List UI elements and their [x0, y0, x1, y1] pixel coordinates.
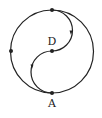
- label-d: D: [48, 35, 57, 48]
- lower-inner-arc: [31, 51, 52, 93]
- point-top: [50, 8, 54, 12]
- label-a: A: [47, 97, 57, 110]
- point-left: [9, 49, 13, 53]
- point-d: [50, 49, 54, 53]
- point-a: [50, 91, 54, 95]
- yin-yang-path-diagram: D A: [0, 0, 102, 118]
